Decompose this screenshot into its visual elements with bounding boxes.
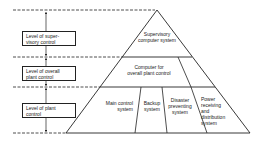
- tier-label-disaster-preventing: Disaster preventing system: [164, 97, 196, 115]
- level-label-overall: Level of overall plant control: [26, 68, 72, 80]
- level-label-supervisory: Level of super- visory control: [26, 33, 72, 45]
- level-label-plant: Level of plant control: [26, 105, 72, 117]
- tier-label-supervisory-computer: Supervisory computer system: [132, 31, 182, 43]
- tier-label-backup: Backup system: [140, 100, 164, 112]
- tier-label-power-distribution: Power receiving and distribution system: [201, 96, 241, 126]
- level-box-supervisory: Level of super- visory control: [22, 31, 76, 46]
- level-box-overall: Level of overall plant control: [22, 66, 76, 81]
- tier-label-main-control: Main control system: [89, 100, 133, 112]
- level-box-plant: Level of plant control: [22, 103, 76, 118]
- tier-label-overall-plant-computer: Computer for overall plant control: [118, 64, 180, 76]
